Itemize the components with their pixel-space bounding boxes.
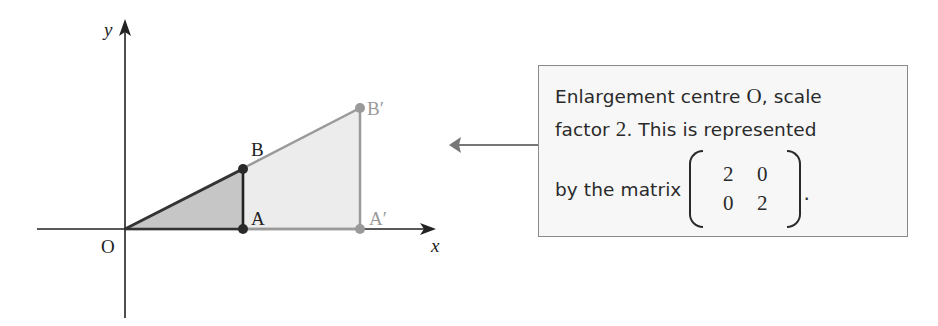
scale-factor-value: 2 (616, 117, 627, 141)
label-A-prime: A′ (369, 208, 387, 229)
point-A (238, 224, 248, 234)
callout-text: by the matrix (555, 173, 681, 206)
y-axis-label: y (102, 19, 113, 40)
right-paren-icon (787, 150, 801, 228)
point-B (238, 164, 248, 174)
callout-text: factor (555, 119, 616, 140)
left-paren-icon (689, 150, 703, 228)
callout-text: , scale (762, 86, 822, 107)
point-B-prime (355, 103, 365, 113)
origin-label: O (101, 236, 115, 257)
transformation-matrix: 2 0 0 2 (689, 150, 801, 228)
matrix-cell-0-1: 0 (745, 160, 779, 189)
point-A-prime (355, 224, 365, 234)
matrix-cell-1-0: 0 (711, 189, 745, 218)
callout-text: . (803, 177, 809, 210)
callout-line-2: factor 2. This is represented (555, 113, 891, 146)
matrix-cell-1-1: 2 (745, 189, 779, 218)
label-B: B (251, 139, 264, 160)
centre-label: O (746, 84, 761, 108)
callout-text: Enlargement centre (555, 86, 746, 107)
label-B-prime: B′ (367, 98, 384, 119)
x-axis-label: x (430, 235, 440, 256)
label-A: A (251, 208, 265, 229)
callout-text: . This is represented (626, 119, 816, 140)
explanation-callout: Enlargement centre O, scale factor 2. Th… (538, 65, 908, 237)
matrix-cell-0-0: 2 (711, 160, 745, 189)
callout-line-1: Enlargement centre O, scale (555, 80, 891, 113)
callout-line-3: by the matrix 2 0 0 2 . (555, 150, 891, 228)
